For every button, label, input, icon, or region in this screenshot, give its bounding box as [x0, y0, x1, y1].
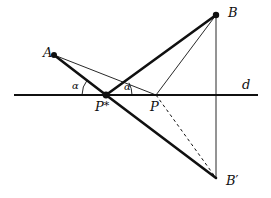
label-point-a: A — [43, 46, 52, 59]
label-angle-alpha-right: α — [124, 82, 131, 92]
segment-p-to-b — [156, 15, 216, 95]
label-b-prime-base: B — [226, 173, 236, 188]
diagram-canvas — [0, 0, 271, 198]
segment-a-to-p — [54, 55, 156, 95]
angle-arc-alpha-left — [82, 80, 87, 95]
label-p-star-mark: * — [104, 99, 110, 112]
label-point-p: P — [150, 100, 159, 113]
point-dot-b — [213, 12, 219, 18]
point-dot-p-star — [103, 92, 110, 99]
label-point-b-prime: B′ — [226, 174, 239, 187]
label-point-p-star: P* — [95, 100, 109, 113]
label-b-prime-mark: ′ — [236, 173, 239, 188]
segment-p-star-to-b — [106, 15, 216, 95]
label-point-b: B — [228, 6, 238, 19]
segment-a-to-p-star — [54, 55, 106, 95]
segment-p-star-to-b-prime — [106, 95, 216, 178]
label-angle-alpha-left: α — [72, 81, 79, 91]
geometry-figure: A B B′ P P* d α α — [0, 0, 271, 198]
segment-p-to-b-prime-dashed — [156, 95, 216, 178]
label-line-d: d — [242, 78, 250, 91]
label-p-star-base: P — [95, 99, 104, 114]
